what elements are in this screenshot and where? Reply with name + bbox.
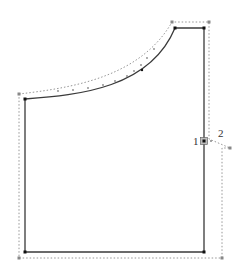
label-point-2: 2: [218, 127, 224, 139]
seam-point[interactable]: [221, 257, 224, 260]
curve-point[interactable]: [114, 80, 116, 82]
curve-point[interactable]: [153, 48, 155, 50]
corner-point-top-right[interactable]: [203, 27, 206, 30]
seam-point[interactable]: [210, 140, 212, 142]
curve-point[interactable]: [126, 75, 128, 77]
corner-point-top-left[interactable]: [24, 98, 27, 101]
corner-point-bottom-right[interactable]: [203, 251, 206, 254]
seam-point[interactable]: [171, 21, 174, 24]
corner-point-bottom-left[interactable]: [24, 251, 27, 254]
curve-point[interactable]: [146, 57, 148, 59]
pattern-canvas: 1 2: [0, 0, 238, 278]
curve-point[interactable]: [72, 89, 74, 91]
curve-point[interactable]: [87, 87, 89, 89]
curve-point[interactable]: [133, 70, 135, 72]
curve-point[interactable]: [140, 64, 142, 66]
seam-point[interactable]: [229, 147, 232, 150]
corner-point-neck[interactable]: [174, 27, 177, 30]
curve-point[interactable]: [102, 84, 104, 86]
point-1[interactable]: [203, 140, 206, 143]
label-point-1: 1: [193, 135, 199, 147]
seam-point[interactable]: [208, 21, 211, 24]
curve-point[interactable]: [141, 69, 143, 71]
pattern-outline: [25, 28, 204, 252]
curve-point[interactable]: [57, 90, 59, 92]
seam-point[interactable]: [18, 93, 21, 96]
seam-point[interactable]: [18, 257, 21, 260]
